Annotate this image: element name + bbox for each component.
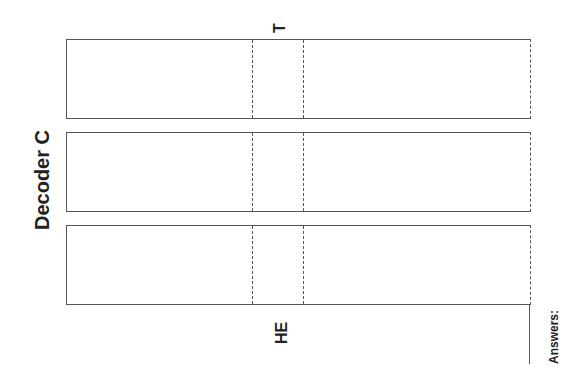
dashed-column-right-2: [303, 133, 304, 211]
decoder-title: Decoder C: [31, 130, 54, 230]
top-label: T: [271, 23, 289, 33]
bottom-label: HE: [273, 322, 291, 344]
strip-2: [66, 132, 531, 212]
strip-1: [66, 39, 531, 119]
answers-label: Answers:: [547, 310, 561, 364]
dashed-column-right-1: [303, 40, 304, 118]
dashed-column-left-2: [252, 133, 253, 211]
answers-divider-line: [529, 304, 530, 364]
dashed-column-right-3: [303, 226, 304, 304]
dashed-column-left-1: [252, 40, 253, 118]
strip-3: [66, 225, 531, 305]
dashed-column-left-3: [252, 226, 253, 304]
